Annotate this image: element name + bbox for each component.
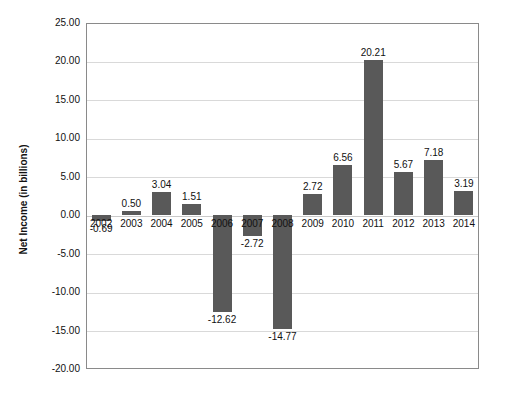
y-axis-tick-label: 10.00 [8,133,86,143]
value-label-2006: -12.62 [200,314,244,325]
bar-2012[interactable] [394,172,413,216]
y-axis-tick-label: -15.00 [8,326,86,336]
y-axis-tick-label: -10.00 [8,287,86,297]
net-income-bar-chart: Net Income (in billions) 25.0020.0015.00… [0,0,505,399]
bar-2008[interactable] [273,215,292,329]
x-axis-label-2014: 2014 [444,218,484,229]
value-label-2011: 20.21 [351,47,395,58]
y-axis-tick-label: -5.00 [8,249,86,259]
value-label-2009: 2.72 [291,181,335,192]
bars-layer: -0.6920020.5020033.0420041.512005-12.622… [86,23,479,369]
bar-2011[interactable] [364,60,383,215]
value-label-2004: 3.04 [140,179,184,190]
bar-2013[interactable] [424,160,443,215]
value-label-2003: 0.50 [109,198,153,209]
bar-2004[interactable] [152,192,171,215]
bar-2003[interactable] [122,211,141,215]
bar-2006[interactable] [213,215,232,312]
y-axis-tick-label: 25.00 [8,18,86,28]
value-label-2007: -2.72 [230,238,274,249]
value-label-2014: 3.19 [442,178,486,189]
y-axis-tick-label: 5.00 [8,172,86,182]
bar-2010[interactable] [333,165,352,215]
bar-2009[interactable] [303,194,322,215]
value-label-2012: 5.67 [381,159,425,170]
y-axis-tick-label: 15.00 [8,95,86,105]
bar-2005[interactable] [182,204,201,216]
bar-2014[interactable] [454,191,473,216]
value-label-2013: 7.18 [412,147,456,158]
value-label-2005: 1.51 [170,191,214,202]
value-label-2008: -14.77 [261,331,305,342]
y-axis-tick-label: 0.00 [8,210,86,220]
value-label-2010: 6.56 [321,152,365,163]
y-axis-tick-label: -20.00 [8,364,86,374]
y-axis-tick-label: 20.00 [8,56,86,66]
y-axis-tick-labels: 25.0020.0015.0010.005.000.00-5.00-10.00-… [0,23,86,369]
